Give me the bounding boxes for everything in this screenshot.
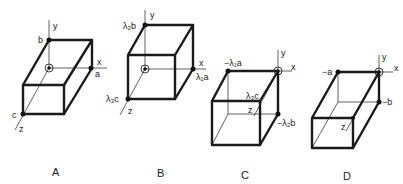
vertex-neg-b <box>377 100 382 105</box>
hidden-edge <box>212 114 228 145</box>
axis-label-y: y <box>53 21 58 31</box>
axis-label-y: y <box>382 52 387 62</box>
axis-label-z: z <box>19 124 24 134</box>
caption-b: B <box>157 167 164 179</box>
vertex-neg-lambda1-a <box>226 69 231 74</box>
vertex-lambda3-c <box>126 97 131 102</box>
axis-label-x: x <box>199 58 204 68</box>
box-outline <box>128 25 193 99</box>
origin-dot <box>377 70 381 74</box>
vertex-label-neg-lambda1-a: −λ₁a <box>224 58 242 68</box>
panel-d: y x z −a −b D <box>312 52 399 182</box>
origin-dot <box>143 67 147 71</box>
vertex-label-c: c <box>12 110 17 120</box>
vertex-label-lambda1-a: λ₁a <box>196 72 209 82</box>
box-outline <box>212 71 278 145</box>
caption-c: C <box>241 169 249 181</box>
axis-label-x: x <box>97 57 102 67</box>
vertex-label-neg-a: −a <box>322 67 332 77</box>
axis-label-z: z <box>248 105 253 115</box>
axis-label-z: z <box>128 106 133 116</box>
vertex-label-neg-b: −b <box>382 97 392 107</box>
vertex-neg-a <box>336 70 341 75</box>
vertex-label-a: a <box>95 69 100 79</box>
vertex-label-b: b <box>38 35 43 45</box>
vertex-lambda2-b <box>143 23 148 28</box>
box-outline <box>312 72 379 148</box>
z-axis <box>15 68 49 130</box>
caption-d: D <box>343 170 351 182</box>
vertex-label-lambda3-c: λ₃c <box>106 94 119 104</box>
vertex-neg-lambda2-b <box>276 112 281 117</box>
axis-label-y: y <box>281 48 286 58</box>
panel-a: y x z b a c A <box>12 20 107 178</box>
caption-a: A <box>52 166 60 178</box>
axis-label-y: y <box>150 10 155 20</box>
panel-c: y x z −λ₁a λ₃c −λ₂b C <box>212 48 296 181</box>
origin-dot <box>47 66 51 70</box>
vertex-b <box>47 38 52 43</box>
axis-label-x: x <box>394 63 399 73</box>
panel-b: y x z λ₂b λ₁a λ₃c B <box>106 10 209 179</box>
z-axis <box>120 69 145 115</box>
vertex-label-lambda2-b: λ₂b <box>123 21 136 31</box>
origin-dot <box>276 69 280 73</box>
axis-label-x: x <box>291 62 296 72</box>
vertex-c <box>21 112 26 117</box>
vertex-label-lambda3-c: λ₃c <box>246 91 259 101</box>
vertex-lambda1-a <box>191 67 196 72</box>
box-outline <box>23 40 92 114</box>
axis-label-z: z <box>341 122 346 132</box>
box-transformations-diagram: y x z b a c A y x z λ₂b λ₁a λ₃c B <box>0 0 403 184</box>
vertex-front-top-right <box>351 116 355 120</box>
vertex-a <box>89 66 94 71</box>
vertex-label-neg-lambda2-b: −λ₂b <box>277 118 295 128</box>
